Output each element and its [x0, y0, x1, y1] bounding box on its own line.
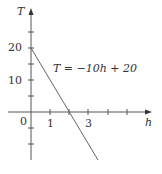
x-axis-arrow-icon — [145, 110, 152, 115]
x-axis-label: h — [145, 117, 152, 128]
y-tick-label-20: 20 — [8, 42, 22, 53]
y-axis-arrow-icon — [29, 8, 34, 15]
x-tick-label-1: 1 — [47, 118, 54, 129]
x-tick-label-3: 3 — [85, 118, 92, 129]
y-axis-label: T — [17, 6, 24, 17]
origin-label: 0 — [20, 116, 27, 127]
equation-label: T = −10h + 20 — [53, 63, 137, 74]
chart-canvas — [0, 0, 162, 174]
y-tick-label-10: 10 — [8, 75, 22, 86]
